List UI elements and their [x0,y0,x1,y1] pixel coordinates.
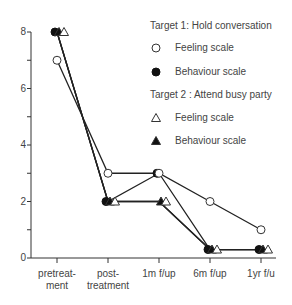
legend-label-t2-feeling: Feeling scale [175,112,234,123]
y-tick-label: 8 [16,26,26,37]
legend-label-t1-behaviour: Behaviour scale [175,66,246,77]
legend-label-t2-behaviour: Behaviour scale [175,135,246,146]
legend-label-t1-feeling: Feeling scale [175,42,234,53]
y-tick-label: 2 [16,196,26,207]
line-chart [0,0,292,305]
x-tick-label: 1yr f/u [231,268,291,280]
legend-group1-title: Target 1: Hold conversation [150,20,272,31]
y-tick-label: 0 [16,252,26,263]
y-tick-label: 6 [16,83,26,94]
legend-group2-title: Target 2 : Attend busy party [150,89,272,100]
y-tick-label: 4 [16,139,26,150]
